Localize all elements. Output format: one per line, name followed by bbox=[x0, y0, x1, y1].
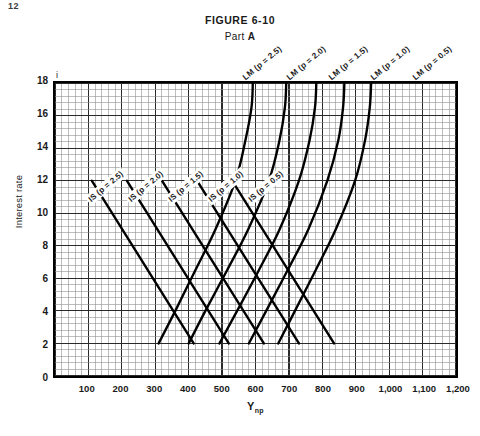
y-axis-tick-4: 4 bbox=[14, 307, 48, 317]
figure-title: FIGURE 6-10 bbox=[0, 14, 480, 26]
y-axis-tick-18: 18 bbox=[14, 76, 48, 86]
y-axis-tick-6: 6 bbox=[14, 274, 48, 284]
y-axis-tick-2: 2 bbox=[14, 340, 48, 350]
curve-lm-p0-5 bbox=[278, 83, 371, 343]
x-axis-tick-group: 1002003004005006007008009001,0001,1001,2… bbox=[53, 383, 458, 397]
plot-area bbox=[53, 81, 458, 378]
y-axis-tick-16: 16 bbox=[14, 109, 48, 119]
x-axis-title: Ynp bbox=[53, 400, 458, 414]
x-axis-title-sub: np bbox=[255, 407, 264, 414]
lm-curve-label-3: LM (p = 1.0) bbox=[369, 44, 411, 82]
lm-curve-label-0: LM (p = 2.5) bbox=[241, 44, 283, 82]
curve-lines bbox=[55, 83, 456, 376]
page-number: 12 bbox=[8, 2, 19, 9]
x-axis-title-main: Y bbox=[247, 400, 255, 412]
lm-curve-label-2: LM (p = 1.5) bbox=[327, 44, 369, 82]
curve-lm-p1-5 bbox=[219, 83, 316, 343]
y-axis-tick-14: 14 bbox=[14, 142, 48, 152]
lm-curve-label-4: LM (p = 0.5) bbox=[411, 44, 453, 82]
y-axis-symbol: i bbox=[56, 70, 58, 80]
figure-part-prefix: Part bbox=[225, 31, 248, 42]
y-axis-tick-0: 0 bbox=[14, 373, 48, 383]
figure-part-letter: A bbox=[248, 31, 256, 42]
lm-curve-label-1: LM (p = 2.0) bbox=[285, 44, 327, 82]
curve-lm-p1 bbox=[249, 83, 345, 343]
figure-part: Part A bbox=[0, 31, 480, 42]
y-axis-title: Interest rate bbox=[13, 152, 24, 252]
x-axis-tick-1200: 1,200 bbox=[434, 383, 480, 394]
